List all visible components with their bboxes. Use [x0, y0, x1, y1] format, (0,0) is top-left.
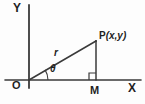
point-p-marker: [95, 40, 97, 42]
angle-arc-theta: [45, 70, 48, 80]
point-p-name: P: [99, 30, 106, 41]
angle-label-theta: θ: [50, 64, 56, 74]
right-angle-marker-icon: [89, 73, 96, 80]
radius-line-op: [29, 41, 96, 80]
y-axis-label: Y: [13, 2, 21, 14]
foot-point-label-m: M: [90, 85, 99, 96]
diagram-canvas: [0, 0, 145, 104]
point-p-coordinates: (x,y): [106, 30, 127, 41]
radius-label-r: r: [54, 48, 58, 58]
point-p-label: P(x,y): [99, 31, 126, 41]
coordinate-diagram: Y X O M P(x,y) r θ: [0, 0, 145, 104]
x-axis-label: X: [128, 82, 136, 94]
origin-label: O: [12, 80, 21, 91]
